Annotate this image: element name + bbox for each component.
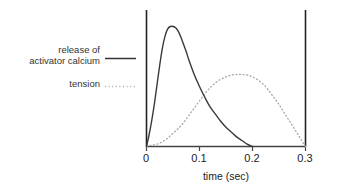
legend-label-tension-line1: tension [69,78,100,89]
legend-label-tension: tension [0,78,100,89]
x-axis-title: time (sec) [136,170,316,182]
x-tick-label-3: 0.3 [290,152,320,164]
legend-label-calcium-line1: release of [58,44,100,55]
x-tick-label-1: 0.1 [184,152,214,164]
x-tick-label-2: 0.2 [237,152,267,164]
plot-svg [0,0,338,189]
series-tension-curve [147,74,306,146]
x-tick-label-0: 0 [131,152,161,164]
legend-label-calcium: release of activator calcium [0,44,100,66]
chart-figure: release of activator calcium tension 0 0… [0,0,338,189]
series-calcium-curve [147,26,253,146]
legend-label-calcium-line2: activator calcium [29,55,100,66]
